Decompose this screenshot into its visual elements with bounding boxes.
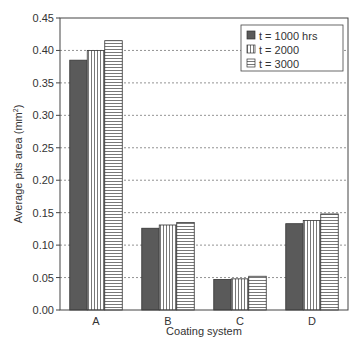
y-tick-label: 0.35	[33, 77, 54, 89]
y-tick-label: 0.10	[33, 239, 54, 251]
legend-swatch	[247, 45, 255, 53]
y-tick-label: 0.05	[33, 272, 54, 284]
y-tick-label: 0.15	[33, 207, 54, 219]
legend-swatch	[247, 31, 255, 39]
bar-A-2	[105, 41, 123, 310]
bar-B-1	[159, 225, 177, 310]
bar-C-0	[214, 280, 232, 310]
bar-A-1	[87, 50, 105, 310]
x-axis-title: Coating system	[166, 325, 242, 337]
legend-label: t = 1000 hrs	[259, 30, 318, 42]
bar-chart: 0.000.050.100.150.200.250.300.350.400.45…	[0, 0, 364, 351]
legend-label: t = 2000	[259, 44, 299, 56]
bars	[70, 41, 339, 310]
legend: t = 1000 hrst = 2000t = 3000	[241, 25, 343, 71]
y-tick-label: 0.20	[33, 174, 54, 186]
legend-swatch	[247, 59, 255, 67]
bar-C-1	[231, 279, 249, 310]
y-axis-ticks: 0.000.050.100.150.200.250.300.350.400.45	[33, 12, 60, 316]
y-tick-label: 0.45	[33, 12, 54, 24]
bar-D-0	[286, 224, 304, 310]
y-axis-title: Average pits area (mm2)	[12, 105, 24, 224]
bar-D-2	[321, 214, 339, 310]
bar-A-0	[70, 60, 88, 310]
y-tick-label: 0.40	[33, 44, 54, 56]
x-tick-label: D	[308, 315, 316, 327]
bar-D-1	[303, 220, 321, 310]
bar-B-2	[177, 222, 195, 310]
x-tick-label: A	[92, 315, 100, 327]
bar-B-0	[142, 228, 160, 310]
y-tick-label: 0.00	[33, 304, 54, 316]
y-tick-label: 0.30	[33, 109, 54, 121]
y-tick-label: 0.25	[33, 142, 54, 154]
legend-label: t = 3000	[259, 58, 299, 70]
bar-C-2	[249, 276, 267, 310]
